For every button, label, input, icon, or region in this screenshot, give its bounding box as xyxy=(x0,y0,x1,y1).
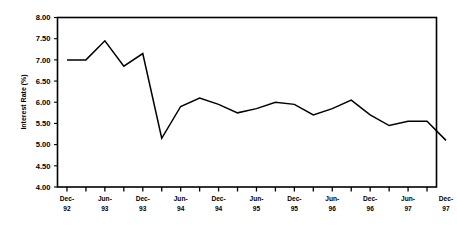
x-tick-label-line2: 97 xyxy=(442,205,450,212)
y-axis-tick-labels: 4.004.505.005.506.006.507.007.508.00 xyxy=(36,13,51,192)
x-tick-label-line1: Dec- xyxy=(439,195,453,202)
y-tick-label: 6.50 xyxy=(36,77,51,86)
y-tick-label: 7.00 xyxy=(36,56,51,65)
interest-rate-chart: 4.004.505.005.506.006.507.007.508.00 Int… xyxy=(0,0,457,226)
x-tick-label-line1: Jun- xyxy=(325,195,339,202)
y-tick-label: 8.00 xyxy=(36,13,51,22)
x-tick-label-line2: 93 xyxy=(139,205,147,212)
plot-frame xyxy=(58,18,437,188)
y-axis-title: Interest Rate (%) xyxy=(20,74,28,129)
x-tick-label-line1: Dec- xyxy=(60,195,74,202)
x-tick-label-line2: 94 xyxy=(215,205,223,212)
y-tick-label: 7.50 xyxy=(36,34,51,43)
x-tick-label-line1: Dec- xyxy=(211,195,225,202)
y-tick-label: 4.50 xyxy=(36,162,51,171)
x-tick-label-line1: Dec- xyxy=(136,195,150,202)
y-tick-label: 5.00 xyxy=(36,140,51,149)
x-tick-label-line2: 94 xyxy=(177,205,185,212)
data-series-line xyxy=(67,41,446,141)
x-tick-label-line2: 93 xyxy=(101,205,109,212)
x-tick-label-line1: Jun- xyxy=(174,195,188,202)
y-tick-label: 6.00 xyxy=(36,98,51,107)
x-tick-label-line2: 96 xyxy=(329,205,337,212)
x-tick-label-line2: 92 xyxy=(63,205,71,212)
x-tick-label-line1: Dec- xyxy=(363,195,377,202)
x-tick-label-line2: 97 xyxy=(404,205,412,212)
x-tick-label-line2: 95 xyxy=(253,205,261,212)
x-tick-label-line1: Jun- xyxy=(401,195,415,202)
x-tick-label-line1: Jun- xyxy=(250,195,264,202)
x-axis-tick-labels: Dec-92Jun-93Dec-93Jun-94Dec-94Jun-95Dec-… xyxy=(60,195,453,212)
x-tick-label-line2: 96 xyxy=(367,205,375,212)
y-tick-label: 4.00 xyxy=(36,183,51,192)
x-tick-label-line2: 95 xyxy=(291,205,299,212)
x-tick-label-line1: Dec- xyxy=(287,195,301,202)
y-tick-label: 5.50 xyxy=(36,119,51,128)
x-tick-label-line1: Jun- xyxy=(98,195,112,202)
chart-canvas: 4.004.505.005.506.006.507.007.508.00 Int… xyxy=(0,0,457,226)
